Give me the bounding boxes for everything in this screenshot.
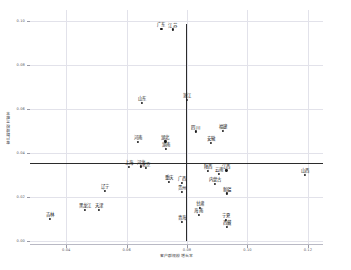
data-point-label: 北京 — [142, 162, 150, 166]
data-point[interactable] — [210, 142, 212, 144]
y-gridline — [30, 21, 323, 22]
data-point[interactable] — [197, 214, 199, 216]
data-point-label: 湖北 — [161, 135, 169, 139]
data-point[interactable] — [98, 209, 100, 211]
x-axis-line — [30, 244, 323, 245]
data-point-label: 内蒙古 — [209, 178, 221, 182]
y-gridline — [30, 109, 323, 110]
data-point[interactable] — [225, 169, 227, 171]
data-point-label: 上海 — [125, 161, 133, 165]
x-gridline — [187, 10, 188, 245]
y-tick — [27, 241, 30, 242]
y-tick — [27, 65, 30, 66]
x-gridline — [308, 10, 309, 245]
data-point-label: 西藏 — [223, 221, 231, 225]
data-point[interactable] — [104, 189, 106, 191]
data-point[interactable] — [304, 174, 306, 176]
data-point[interactable] — [181, 221, 183, 223]
data-point[interactable] — [181, 191, 183, 193]
data-point[interactable] — [171, 28, 173, 30]
data-point-label: 安徽 — [207, 137, 215, 141]
data-point-label: 辽宁 — [101, 185, 109, 189]
data-point-label: 四川 — [191, 125, 199, 129]
y-axis-title: 客户群规模贡献率 — [6, 111, 12, 144]
data-point-label: 贵州 — [178, 186, 186, 190]
y-tick — [27, 109, 30, 110]
data-point-label: 广东 — [157, 23, 165, 27]
data-point[interactable] — [168, 181, 170, 183]
data-point[interactable] — [165, 148, 167, 150]
data-point-label: 黑龙江 — [79, 204, 91, 208]
data-point[interactable] — [145, 167, 147, 169]
data-point[interactable] — [141, 102, 143, 104]
data-point-label: 吉林 — [46, 213, 54, 217]
data-point[interactable] — [207, 170, 209, 172]
data-point-label: 浙江 — [183, 94, 191, 98]
data-point-label: 天津 — [95, 204, 103, 208]
y-gridline — [30, 65, 323, 66]
data-point[interactable] — [84, 209, 86, 211]
data-point-label: 重庆 — [165, 176, 173, 180]
x-gridline — [247, 10, 248, 245]
y-tick — [27, 197, 30, 198]
y-gridline — [30, 241, 323, 242]
vertical-reference-line — [186, 24, 187, 240]
data-point[interactable] — [226, 192, 228, 194]
data-point[interactable] — [128, 166, 130, 168]
y-axis-title-wrap: 客户群规模贡献率 — [6, 10, 12, 245]
data-point-label: 新疆 — [223, 187, 231, 191]
plot-area: 0.040.060.080.100.120.000.020.040.060.08… — [30, 10, 323, 245]
data-point-label: 青海 — [178, 216, 186, 220]
y-gridline — [30, 197, 323, 198]
data-point-label: 河南 — [134, 136, 142, 140]
data-point-label: 广西 — [178, 177, 186, 181]
data-point-label: 江苏 — [168, 23, 176, 27]
horizontal-reference-line — [30, 163, 323, 164]
scatter-chart-figure: 0.040.060.080.100.120.000.020.040.060.08… — [0, 0, 351, 270]
data-point-label: 湖南 — [162, 143, 170, 147]
data-point-label: 山东 — [138, 97, 146, 101]
y-tick — [27, 21, 30, 22]
x-gridline — [66, 10, 67, 245]
data-point[interactable] — [222, 130, 224, 132]
y-tick — [27, 153, 30, 154]
data-point-label: 福建 — [219, 125, 227, 129]
data-point[interactable] — [218, 173, 220, 175]
x-axis-title: 客户群规模增长率 — [30, 252, 323, 258]
data-point[interactable] — [226, 226, 228, 228]
data-point-label: 山西 — [301, 169, 309, 173]
data-point[interactable] — [214, 183, 216, 185]
x-gridline — [127, 10, 128, 245]
data-point-label: 云南 — [215, 168, 223, 172]
data-point[interactable] — [160, 28, 162, 30]
data-point[interactable] — [137, 141, 139, 143]
data-point-label: 宁夏 — [222, 214, 230, 218]
data-point-label: 海南 — [194, 209, 202, 213]
data-point[interactable] — [49, 218, 51, 220]
data-point-label: 江西 — [222, 164, 230, 168]
data-point[interactable] — [181, 182, 183, 184]
data-point-label: 甘肃 — [196, 202, 204, 206]
data-point[interactable] — [194, 130, 196, 132]
y-gridline — [30, 153, 323, 154]
data-point-label: 陕西 — [204, 165, 212, 169]
